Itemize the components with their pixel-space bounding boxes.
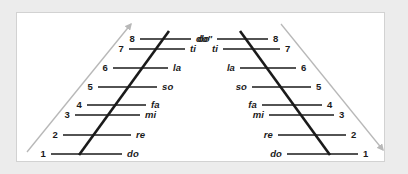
degree-label-1-descending-ladder: 1	[363, 149, 368, 159]
degree-label-4-descending-ladder: 4	[327, 100, 332, 110]
diagonal-ascending-ladder	[79, 31, 169, 155]
syllable-label-do-descending-ladder: do	[270, 149, 282, 159]
degree-label-6-ascending-ladder: 6	[103, 63, 108, 73]
degree-label-5-descending-ladder: 5	[316, 82, 321, 92]
degree-label-2-descending-ladder: 2	[351, 130, 356, 140]
syllable-label-so-descending-ladder: so	[236, 82, 247, 92]
degree-label-6-descending-ladder: 6	[301, 63, 306, 73]
degree-label-3-descending-ladder: 3	[339, 110, 344, 120]
ascending-arrow	[27, 24, 131, 152]
syllable-label-ti-ascending-ladder: ti	[190, 44, 196, 54]
degree-label-8-ascending-ladder: 8	[130, 34, 135, 44]
degree-label-5-ascending-ladder: 5	[88, 82, 93, 92]
degree-label-8-descending-ladder: 8	[273, 34, 278, 44]
syllable-label-do-prime-descending-ladder: do'	[198, 34, 212, 44]
syllable-label-la-ascending-ladder: la	[173, 63, 181, 73]
rung-lines	[51, 39, 358, 154]
syllable-label-ti-descending-ladder: ti	[212, 44, 218, 54]
degree-label-4-ascending-ladder: 4	[77, 100, 82, 110]
degree-label-1-ascending-ladder: 1	[41, 149, 46, 159]
degree-label-2-ascending-ladder: 2	[53, 130, 58, 140]
ladder-diagram-svg	[0, 0, 408, 174]
syllable-label-mi-ascending-ladder: mi	[145, 110, 156, 120]
degree-label-7-ascending-ladder: 7	[119, 44, 124, 54]
syllable-label-la-descending-ladder: la	[227, 63, 235, 73]
degree-label-7-descending-ladder: 7	[285, 44, 290, 54]
syllable-label-so-ascending-ladder: so	[162, 82, 173, 92]
diagonal-lines	[79, 31, 330, 155]
syllable-label-re-descending-ladder: re	[264, 130, 273, 140]
syllable-label-re-ascending-ladder: re	[136, 130, 145, 140]
syllable-label-fa-ascending-ladder: fa	[151, 100, 160, 110]
syllable-label-mi-descending-ladder: mi	[253, 110, 264, 120]
diagram-root: 1do2re3mi4fa5so6la7ti8do'8do'7ti6la5so4f…	[0, 0, 408, 174]
degree-label-3-ascending-ladder: 3	[65, 110, 70, 120]
syllable-label-do-ascending-ladder: do	[127, 149, 139, 159]
